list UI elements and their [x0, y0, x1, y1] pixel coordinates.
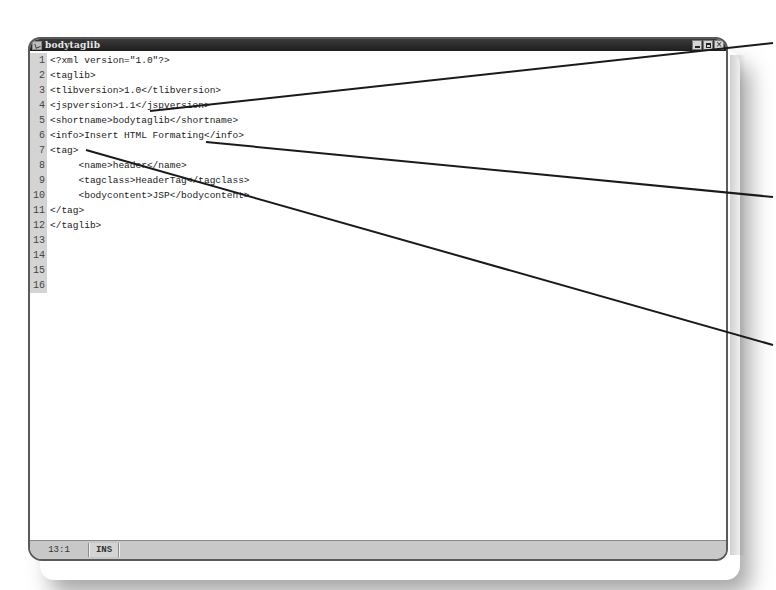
maximize-button[interactable]	[703, 40, 713, 50]
line-text: <info>Insert HTML Formating</info>	[47, 128, 244, 143]
code-line: 3<tlibversion>1.0</tlibversion>	[30, 83, 726, 98]
code-line: 6<info>Insert HTML Formating</info>	[30, 128, 726, 143]
line-number: 15	[30, 263, 47, 278]
code-line: 7<tag>	[30, 143, 726, 158]
line-number: 16	[30, 278, 47, 293]
line-text	[47, 248, 50, 263]
code-line: 5<shortname>bodytaglib</shortname>	[30, 113, 726, 128]
line-number: 4	[30, 98, 47, 113]
code-line: 1<?xml version="1.0"?>	[30, 53, 726, 68]
line-number: 12	[30, 218, 47, 233]
line-number: 8	[30, 158, 47, 173]
code-line: 8 <name>header</name>	[30, 158, 726, 173]
line-number: 11	[30, 203, 47, 218]
line-text: </taglib>	[47, 218, 101, 233]
line-text: <tag>	[47, 143, 79, 158]
status-bar: 13:1 INS	[30, 540, 726, 559]
insert-mode-indicator[interactable]: INS	[89, 543, 119, 557]
line-number: 10	[30, 188, 47, 203]
window-right-shade	[730, 55, 746, 555]
line-number: 9	[30, 173, 47, 188]
code-line: 15	[30, 263, 726, 278]
line-number: 5	[30, 113, 47, 128]
line-text: <tlibversion>1.0</tlibversion>	[47, 83, 221, 98]
line-text	[47, 278, 50, 293]
line-text: <taglib>	[47, 68, 96, 83]
minimize-button[interactable]	[692, 40, 702, 50]
line-text	[47, 263, 50, 278]
window-title: bodytaglib	[45, 39, 100, 51]
close-icon: ×	[716, 41, 723, 49]
line-text: <jspversion>1.1</jspversion>	[47, 98, 210, 113]
window-controls: ×	[692, 40, 724, 50]
line-text: <tagclass>HeaderTag</tagclass>	[47, 173, 250, 188]
titlebar[interactable]: bodytaglib ×	[30, 39, 726, 51]
line-number: 13	[30, 233, 47, 248]
close-button[interactable]: ×	[714, 40, 724, 50]
code-line: 10 <bodycontent>JSP</bodycontent>	[30, 188, 726, 203]
line-number: 6	[30, 128, 47, 143]
cursor-position: 13:1	[30, 543, 89, 557]
code-line: 9 <tagclass>HeaderTag</tagclass>	[30, 173, 726, 188]
line-number: 1	[30, 53, 47, 68]
line-text: <shortname>bodytaglib</shortname>	[47, 113, 238, 128]
code-line: 2<taglib>	[30, 68, 726, 83]
line-text: </tag>	[47, 203, 84, 218]
code-line: 16	[30, 278, 726, 293]
line-number: 7	[30, 143, 47, 158]
line-number: 14	[30, 248, 47, 263]
code-line: 13	[30, 233, 726, 248]
document-edit-icon	[32, 41, 42, 50]
line-number: 2	[30, 68, 47, 83]
line-text	[47, 233, 50, 248]
code-line: 14	[30, 248, 726, 263]
screenshot-stage: bodytaglib × 1<?xml version="1.0"?> 2<ta…	[0, 0, 776, 590]
code-line: 12</taglib>	[30, 218, 726, 233]
line-text: <name>header</name>	[47, 158, 187, 173]
status-empty-panel	[119, 543, 726, 557]
line-number: 3	[30, 83, 47, 98]
code-editor[interactable]: 1<?xml version="1.0"?> 2<taglib> 3<tlibv…	[30, 51, 726, 541]
code-line: 4<jspversion>1.1</jspversion>	[30, 98, 726, 113]
code-line: 11</tag>	[30, 203, 726, 218]
line-text: <?xml version="1.0"?>	[47, 53, 170, 68]
code-lines: 1<?xml version="1.0"?> 2<taglib> 3<tlibv…	[30, 53, 726, 293]
line-text: <bodycontent>JSP</bodycontent>	[47, 188, 250, 203]
editor-window: bodytaglib × 1<?xml version="1.0"?> 2<ta…	[28, 37, 728, 561]
